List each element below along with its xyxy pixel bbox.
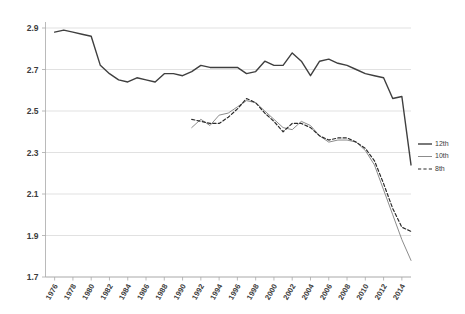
- y-axis-tick-label: 1.7: [27, 272, 39, 282]
- x-axis-tick-label: 1986: [135, 283, 151, 302]
- y-axis-tick-label: 2.5: [27, 106, 39, 116]
- x-axis-tick-label: 2000: [263, 283, 279, 302]
- x-axis-tick-label: 2008: [336, 283, 352, 302]
- y-axis-tick-label: 2.7: [27, 65, 39, 75]
- y-axis-tick-label: 2.1: [27, 189, 39, 199]
- x-axis-tick-label: 1996: [226, 283, 242, 302]
- x-axis-tick-label: 1982: [99, 283, 115, 302]
- x-axis-tick-label: 2002: [281, 283, 297, 302]
- x-axis-tick-label: 1980: [80, 283, 96, 302]
- legend-label-10th: 10th: [435, 152, 449, 159]
- x-axis-tick-label: 1990: [172, 283, 188, 302]
- chart-legend: 12th10th8th: [418, 140, 449, 172]
- x-axis-tick-label: 2006: [318, 283, 334, 302]
- data-series-group: [55, 30, 411, 260]
- x-axis-tick-label: 2012: [373, 283, 389, 302]
- x-axis-tick-label: 1998: [245, 283, 261, 302]
- x-axis-tick-label: 1988: [153, 283, 169, 302]
- x-axis-tick-label: 2004: [300, 282, 317, 302]
- x-axis-tick-labels: 1976197819801982198419861988199019921994…: [44, 282, 408, 302]
- y-axis-tick-label: 2.9: [27, 23, 39, 33]
- y-axis-tick-label: 1.9: [27, 231, 39, 241]
- x-axis-tick-label: 1992: [190, 283, 206, 302]
- series-line-12th: [55, 30, 411, 165]
- y-axis-tick-labels: 1.71.92.12.32.52.72.9: [27, 23, 39, 282]
- x-axis-tick-label: 1984: [117, 282, 134, 302]
- x-axis-tick-label: 1994: [208, 282, 225, 302]
- x-axis-tick-label: 2014: [391, 282, 408, 302]
- x-axis-tick-label: 1976: [44, 283, 60, 302]
- series-line-8th: [192, 99, 411, 232]
- axis-group: [42, 22, 411, 281]
- chart-canvas: 1.71.92.12.32.52.72.9 197619781980198219…: [0, 0, 465, 314]
- y-axis-tick-label: 2.3: [27, 148, 39, 158]
- legend-label-8th: 8th: [435, 165, 445, 172]
- line-chart: 1.71.92.12.32.52.72.9 197619781980198219…: [0, 0, 465, 314]
- x-axis-tick-label: 2010: [354, 283, 370, 302]
- x-axis-tick-label: 1978: [62, 283, 78, 302]
- legend-label-12th: 12th: [435, 140, 449, 147]
- series-line-10th: [192, 101, 411, 261]
